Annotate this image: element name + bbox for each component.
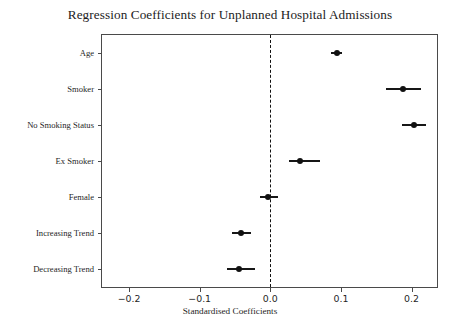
x-axis-tick-label: −0.1	[188, 293, 211, 304]
zero-reference-line	[270, 35, 271, 287]
y-axis-tick-label: Smoker	[0, 84, 94, 94]
y-axis-tick-label: Decreasing Trend	[0, 264, 94, 274]
x-axis-tick-mark	[270, 288, 271, 292]
x-axis-tick-mark	[200, 288, 201, 292]
x-axis-tick-mark	[129, 288, 130, 292]
x-axis-tick-label: 0.0	[263, 293, 278, 304]
x-axis-tick-mark	[341, 288, 342, 292]
y-axis-tick-label: No Smoking Status	[0, 120, 94, 130]
chart-title: Regression Coefficients for Unplanned Ho…	[0, 7, 460, 23]
x-axis-tick-mark	[412, 288, 413, 292]
y-axis-tick-label: Age	[0, 48, 94, 58]
coefficient-point-marker	[238, 230, 244, 236]
coefficient-point-marker	[411, 122, 417, 128]
confidence-interval-bar	[289, 160, 320, 162]
coefficient-point-marker	[334, 50, 340, 56]
regression-coefficient-chart: Regression Coefficients for Unplanned Ho…	[0, 0, 460, 330]
y-axis-tick-label: Increasing Trend	[0, 228, 94, 238]
y-axis-tick-label: Ex Smoker	[0, 156, 94, 166]
x-axis-tick-label: −0.2	[118, 293, 141, 304]
coefficient-point-marker	[297, 158, 303, 164]
coefficient-point-marker	[400, 86, 406, 92]
coefficient-point-marker	[236, 266, 242, 272]
x-axis-tick-label: 0.1	[333, 293, 348, 304]
x-axis-tick-label: 0.2	[404, 293, 419, 304]
x-axis-title: Standardised Coefficients	[0, 306, 460, 316]
y-axis-tick-label: Female	[0, 192, 94, 202]
plot-inner	[102, 35, 437, 287]
plot-area	[101, 34, 438, 288]
